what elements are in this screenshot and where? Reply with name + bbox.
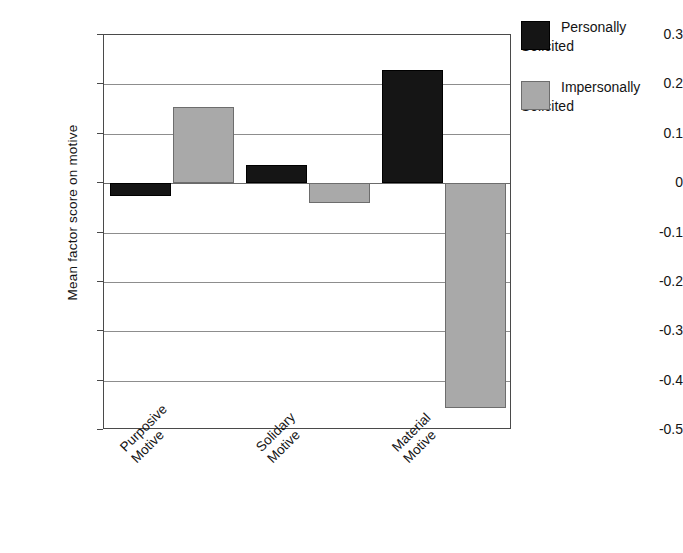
legend-item-0: Personally Solicited (521, 18, 681, 56)
legend-swatch-icon (521, 81, 550, 110)
y-tick-label: -0.5 (637, 421, 683, 437)
plot-area (103, 34, 511, 429)
y-tick-label: -0.4 (637, 372, 683, 388)
legend: Personally SolicitedImpersonally Solicit… (521, 18, 681, 138)
bar-impersonally-solicited-1 (309, 183, 370, 203)
bar-personally-solicited-2 (382, 70, 443, 184)
y-tick-mark (97, 429, 103, 430)
y-tick-label: 0 (637, 174, 683, 190)
gridline (104, 84, 510, 85)
y-tick-label: -0.3 (637, 322, 683, 338)
legend-swatch-icon (521, 21, 550, 50)
bar-personally-solicited-1 (246, 165, 307, 183)
gridline (104, 134, 510, 135)
y-tick-label: -0.1 (637, 224, 683, 240)
bar-impersonally-solicited-0 (173, 107, 234, 184)
legend-item-1: Impersonally Solicited (521, 78, 681, 116)
y-tick-label: -0.2 (637, 273, 683, 289)
y-axis-title: Mean factor score on motive (65, 63, 80, 363)
bar-personally-solicited-0 (110, 183, 171, 196)
chart-figure: Mean factor score on motive 0.30.20.10-0… (0, 0, 683, 553)
